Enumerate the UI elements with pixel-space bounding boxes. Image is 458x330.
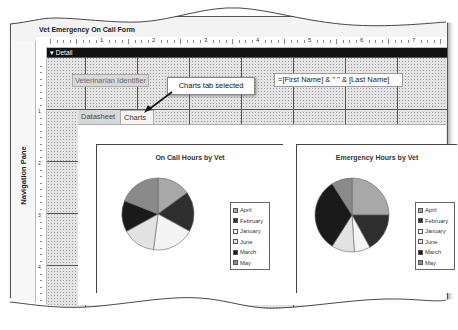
detail-section-bar[interactable]: ▾ Detail [47, 48, 447, 57]
ruler-tick [109, 40, 110, 43]
ruler-tick [40, 92, 42, 93]
ruler-tick [174, 40, 175, 43]
ruler-tick [187, 40, 188, 43]
ruler-number: 4 [38, 264, 41, 270]
ruler-tick [40, 228, 42, 229]
ruler-tick [40, 150, 42, 151]
legend-swatch-icon [418, 208, 423, 213]
ruler-tick [161, 40, 162, 43]
ruler-tick [76, 39, 77, 44]
navigation-pane-label[interactable]: Navigation Pane [19, 124, 28, 228]
emergency-hours-chart[interactable]: Emergency Hours by Vet AprilFebruaryJanu… [296, 144, 457, 293]
ruler-tick [40, 313, 42, 314]
ruler-tick [193, 40, 194, 43]
ruler-tick [434, 40, 435, 43]
section-toggle-icon: ▾ [50, 49, 54, 56]
legend-label: May [425, 260, 436, 266]
ruler-tick [148, 40, 149, 43]
on-call-hours-chart[interactable]: On Call Hours by Vet AprilFebruaryJanuar… [96, 144, 283, 293]
legend-label: January [240, 228, 261, 234]
veterinarian-label[interactable]: Veterinarian Identifier [72, 74, 149, 87]
ruler-tick [382, 40, 383, 43]
ruler-tick [278, 40, 279, 43]
ruler-tick [115, 40, 116, 43]
ruler-tick [128, 39, 129, 44]
ruler-tick [239, 40, 240, 43]
ruler-tick [40, 274, 42, 275]
legend-item-february: February [233, 216, 267, 227]
ruler-tick [40, 209, 42, 210]
ruler-tick [304, 40, 305, 43]
ruler-tick [252, 40, 253, 43]
pie-chart [121, 177, 195, 251]
ruler-tick [70, 40, 71, 43]
ruler-tick [40, 66, 42, 67]
ruler-tick [40, 72, 42, 73]
ruler-tick [40, 79, 42, 80]
ruler-tick [83, 40, 84, 43]
legend-label: February [425, 218, 448, 224]
ruler-tick [40, 280, 42, 281]
legend-item-june: June [233, 237, 267, 248]
ruler-number: 6 [360, 37, 363, 43]
ruler-tick [57, 40, 58, 43]
navigation-pane[interactable]: Navigation Pane [11, 41, 36, 313]
ruler-tick [323, 40, 324, 43]
legend-swatch-icon [418, 250, 423, 255]
ruler-tick [369, 40, 370, 43]
legend-label: June [425, 239, 438, 245]
ruler-tick [40, 85, 42, 86]
callout-charts-tab-selected: Charts tab selected [167, 77, 255, 95]
ruler-tick [40, 118, 42, 119]
ruler-tick [219, 40, 220, 43]
ruler-tick [245, 40, 246, 43]
ruler-tick [349, 40, 350, 43]
ruler-tick [40, 98, 42, 99]
ruler-tick [200, 40, 201, 43]
ruler-tick [232, 39, 233, 44]
charts-tab-page: On Call Hours by Vet AprilFebruaryJanuar… [78, 124, 446, 305]
ruler-tick [40, 235, 42, 236]
ruler-tick [40, 189, 42, 190]
form-document-tab[interactable]: Vet Emergency On Call Form [35, 23, 139, 37]
ruler-tick [427, 40, 428, 43]
ruler-tick [40, 202, 42, 203]
chart-title: On Call Hours by Vet [97, 154, 283, 161]
ruler-tick [141, 40, 142, 43]
legend-swatch-icon [233, 208, 238, 213]
ruler-tick [40, 124, 42, 125]
legend-item-january: January [418, 226, 452, 237]
legend-item-may: May [418, 258, 452, 269]
ruler-tick [297, 40, 298, 43]
ruler-tick [96, 40, 97, 43]
full-name-textbox[interactable]: =[First Name] & " " & [Last Name] [274, 73, 403, 87]
ruler-tick [167, 40, 168, 43]
chart-title: Emergency Hours by Vet [297, 154, 457, 161]
ruler-tick [40, 306, 42, 307]
ruler-tick [40, 287, 42, 288]
ruler-tick [395, 40, 396, 43]
tab-datasheet[interactable]: Datasheet [78, 110, 126, 124]
legend-item-april: April [233, 205, 267, 216]
ruler-tick [122, 40, 123, 43]
legend-swatch-icon [418, 218, 423, 223]
ruler-number: 3 [204, 37, 207, 43]
ruler-tick [40, 131, 42, 132]
ruler-tick [343, 40, 344, 43]
ruler-tick [40, 183, 42, 184]
legend-swatch-icon [233, 250, 238, 255]
chart-legend: AprilFebruaryJanuaryJuneMarchMay [415, 202, 455, 270]
ruler-number: 2 [152, 37, 155, 43]
ruler-tick [330, 40, 331, 43]
legend-item-march: March [418, 247, 452, 258]
ruler-tick [356, 40, 357, 43]
ruler-number: 2 [38, 160, 41, 166]
legend-swatch-icon [233, 239, 238, 244]
legend-label: June [240, 239, 253, 245]
ruler-number: 4 [256, 37, 259, 43]
ruler-tick [40, 254, 42, 255]
ruler-tick [40, 157, 42, 158]
ruler-tick [284, 39, 285, 44]
ruler-tick [40, 137, 42, 138]
ruler-tick [408, 40, 409, 43]
